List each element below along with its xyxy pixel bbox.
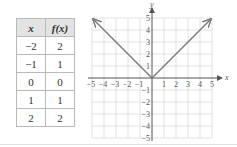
svg-text:5: 5 <box>146 14 150 23</box>
svg-text:3: 3 <box>146 38 150 47</box>
y-axis-label: y <box>149 0 154 9</box>
svg-text:−3: −3 <box>111 80 120 89</box>
svg-text:2: 2 <box>146 50 150 59</box>
svg-text:−4: −4 <box>141 122 150 131</box>
left-branch <box>93 19 152 78</box>
svg-text:−5: −5 <box>141 134 150 143</box>
divider <box>0 144 237 145</box>
svg-text:−5: −5 <box>87 80 96 89</box>
svg-text:−3: −3 <box>141 110 150 119</box>
x-axis-label: x <box>224 73 229 82</box>
svg-text:1: 1 <box>162 80 166 89</box>
svg-text:1: 1 <box>146 62 150 71</box>
x-tick-labels: −5 −4 −3 −2 −1 1 2 3 4 5 <box>87 80 214 89</box>
svg-text:4: 4 <box>198 80 202 89</box>
svg-text:5: 5 <box>210 80 214 89</box>
svg-text:3: 3 <box>186 80 190 89</box>
absolute-value-graph: x y −5 −4 −3 −2 −1 1 2 3 4 5 5 4 3 2 1 −… <box>0 0 237 147</box>
svg-text:−2: −2 <box>141 98 150 107</box>
svg-text:−1: −1 <box>141 86 150 95</box>
svg-text:4: 4 <box>146 26 150 35</box>
svg-text:2: 2 <box>174 80 178 89</box>
svg-text:−4: −4 <box>99 80 108 89</box>
right-branch <box>152 19 211 78</box>
svg-text:−2: −2 <box>123 80 132 89</box>
